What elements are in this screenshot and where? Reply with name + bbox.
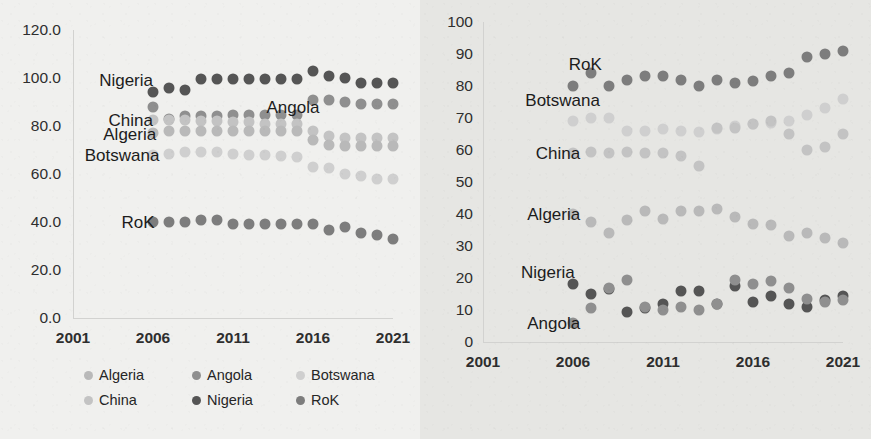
data-point bbox=[766, 116, 777, 127]
data-point bbox=[180, 85, 191, 96]
data-point bbox=[260, 219, 271, 230]
data-point bbox=[180, 115, 191, 126]
data-point bbox=[260, 125, 271, 136]
data-point bbox=[164, 217, 175, 228]
data-point bbox=[838, 129, 849, 140]
legend-item-label: RoK bbox=[311, 392, 339, 408]
data-point bbox=[676, 125, 687, 136]
plot-area-right: 0102030405060708090100200120062011201620… bbox=[483, 22, 843, 342]
data-point bbox=[712, 74, 723, 85]
series-annotation-label: RoK bbox=[122, 214, 155, 231]
data-point bbox=[356, 141, 367, 152]
data-point bbox=[694, 81, 705, 92]
data-point bbox=[372, 230, 383, 241]
data-point bbox=[712, 204, 723, 215]
data-point bbox=[196, 125, 207, 136]
data-point bbox=[694, 127, 705, 138]
data-point bbox=[212, 214, 223, 225]
data-point bbox=[676, 151, 687, 162]
data-point bbox=[748, 76, 759, 87]
data-point bbox=[244, 74, 255, 85]
legend-item-angola[interactable]: Angola bbox=[192, 367, 296, 383]
x-axis-tick-label: 2001 bbox=[56, 330, 90, 346]
data-point bbox=[180, 125, 191, 136]
data-point bbox=[586, 289, 597, 300]
data-point bbox=[640, 301, 651, 312]
data-point bbox=[748, 119, 759, 130]
x-axis-line bbox=[483, 342, 843, 343]
legend-item-algeria[interactable]: Algeria bbox=[84, 367, 192, 383]
y-axis-line bbox=[483, 22, 484, 342]
data-point bbox=[622, 274, 633, 285]
data-point bbox=[356, 99, 367, 110]
y-axis-tick-label: 120.0 bbox=[22, 22, 61, 38]
data-point bbox=[676, 285, 687, 296]
data-point bbox=[640, 148, 651, 159]
data-point bbox=[802, 228, 813, 239]
data-point bbox=[694, 285, 705, 296]
data-point bbox=[180, 217, 191, 228]
data-point bbox=[244, 219, 255, 230]
data-point bbox=[276, 125, 287, 136]
data-point bbox=[694, 205, 705, 216]
data-point bbox=[766, 290, 777, 301]
data-point bbox=[164, 148, 175, 159]
data-point bbox=[292, 125, 303, 136]
y-axis-tick-label: 90 bbox=[456, 46, 473, 62]
legend-swatch-icon bbox=[296, 371, 305, 380]
series-annotation-label: Botswana bbox=[85, 146, 160, 163]
data-point bbox=[784, 68, 795, 79]
legend-item-botswana[interactable]: Botswana bbox=[296, 367, 384, 383]
data-point bbox=[676, 205, 687, 216]
legend-item-china[interactable]: China bbox=[84, 392, 192, 408]
data-point bbox=[730, 77, 741, 88]
legend-swatch-icon bbox=[192, 371, 201, 380]
data-point bbox=[340, 221, 351, 232]
data-point bbox=[372, 173, 383, 184]
data-point bbox=[838, 45, 849, 56]
data-point bbox=[838, 295, 849, 306]
data-point bbox=[292, 152, 303, 163]
legend-item-label: Angola bbox=[207, 367, 252, 383]
data-point bbox=[164, 115, 175, 126]
chart-legend: AlgeriaAngolaBotswanaChinaNigeriaRoK bbox=[84, 367, 384, 408]
data-point bbox=[356, 227, 367, 238]
figure-root: 0.020.040.060.080.0100.0120.020012006201… bbox=[0, 0, 871, 439]
data-point bbox=[308, 65, 319, 76]
data-point bbox=[324, 163, 335, 174]
legend-item-rok[interactable]: RoK bbox=[296, 392, 384, 408]
data-point bbox=[802, 52, 813, 63]
data-point bbox=[212, 74, 223, 85]
data-point bbox=[784, 231, 795, 242]
data-point bbox=[640, 71, 651, 82]
data-point bbox=[604, 81, 615, 92]
x-axis-tick-label: 2016 bbox=[296, 330, 330, 346]
y-axis-tick-label: 20.0 bbox=[31, 262, 61, 278]
data-point bbox=[356, 171, 367, 182]
y-axis-tick-label: 30 bbox=[456, 238, 473, 254]
series-annotation-label: China bbox=[536, 145, 580, 162]
data-point bbox=[766, 71, 777, 82]
y-axis-tick-label: 40.0 bbox=[31, 214, 61, 230]
legend-item-nigeria[interactable]: Nigeria bbox=[192, 392, 296, 408]
data-point bbox=[196, 147, 207, 158]
data-point bbox=[372, 99, 383, 110]
legend-swatch-icon bbox=[192, 396, 201, 405]
data-point bbox=[228, 125, 239, 136]
y-axis-tick-label: 80 bbox=[456, 78, 473, 94]
data-point bbox=[712, 122, 723, 133]
data-point bbox=[276, 74, 287, 85]
data-point bbox=[838, 237, 849, 248]
data-point bbox=[586, 303, 597, 314]
data-point bbox=[658, 71, 669, 82]
data-point bbox=[622, 74, 633, 85]
data-point bbox=[658, 124, 669, 135]
x-axis-tick-label: 2016 bbox=[736, 354, 770, 370]
data-point bbox=[730, 212, 741, 223]
data-point bbox=[260, 149, 271, 160]
data-point bbox=[802, 293, 813, 304]
y-axis-tick-label: 60.0 bbox=[31, 166, 61, 182]
series-annotation-label: RoK bbox=[569, 55, 602, 72]
y-axis-tick-label: 50 bbox=[456, 174, 473, 190]
y-axis-tick-label: 100.0 bbox=[22, 70, 61, 86]
